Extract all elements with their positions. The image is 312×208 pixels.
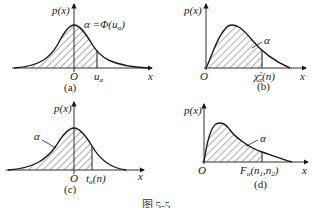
panel-d: p(x) α O Fα(n1,n2) x (d): [183, 104, 308, 191]
svg-text:p(x): p(x): [183, 4, 202, 17]
svg-text:α =Φ(uα): α =Φ(uα): [84, 18, 125, 32]
svg-text:x: x: [147, 70, 153, 82]
panel-b: p(x) α O χ2α(n) x (b): [183, 4, 306, 93]
svg-text:p(x): p(x): [183, 104, 202, 117]
svg-text:O: O: [198, 164, 206, 176]
shaded-area-a: [14, 25, 97, 68]
svg-text:p(x): p(x): [51, 4, 70, 17]
panel-a: p(x) α =Φ(uα) O uα x (a): [12, 4, 153, 94]
svg-text:(c): (c): [64, 183, 77, 196]
figure-caption: 图 5-5: [0, 196, 312, 208]
svg-text:x: x: [137, 170, 143, 182]
svg-text:(d): (d): [254, 178, 267, 191]
svg-text:α: α: [260, 132, 266, 144]
svg-text:x: x: [299, 70, 305, 82]
panel-c: p(x) α O tα(n) x (c): [6, 102, 144, 196]
svg-text:Fα(n1,n2): Fα(n1,n2): [239, 164, 279, 178]
svg-text:O: O: [200, 70, 208, 82]
shaded-area-c: [8, 128, 92, 170]
figure-canvas: p(x) α =Φ(uα) O uα x (a) p(x) α O χ2α(n)…: [0, 0, 312, 208]
svg-text:x: x: [301, 164, 307, 176]
svg-text:p(x): p(x): [53, 102, 72, 115]
svg-text:(b): (b): [257, 80, 270, 93]
svg-text:tα(n): tα(n): [86, 172, 106, 186]
svg-text:(a): (a): [64, 81, 77, 94]
svg-text:uα: uα: [94, 70, 104, 84]
svg-text:α: α: [264, 34, 270, 46]
svg-text:α: α: [34, 130, 40, 142]
